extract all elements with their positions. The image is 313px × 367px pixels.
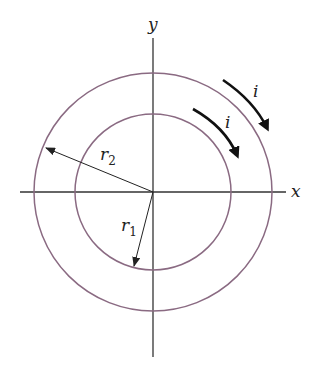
r2-label: r2 xyxy=(100,144,116,168)
y-axis-label: y xyxy=(147,14,158,34)
x-axis-label: x xyxy=(291,181,301,201)
r1-label: r1 xyxy=(121,215,137,239)
inner-current-label: i xyxy=(225,112,230,132)
concentric-loops-diagram: y x i i r2 r1 xyxy=(0,0,313,367)
radius-r1-arrow xyxy=(134,192,153,266)
outer-current-label: i xyxy=(253,81,258,101)
